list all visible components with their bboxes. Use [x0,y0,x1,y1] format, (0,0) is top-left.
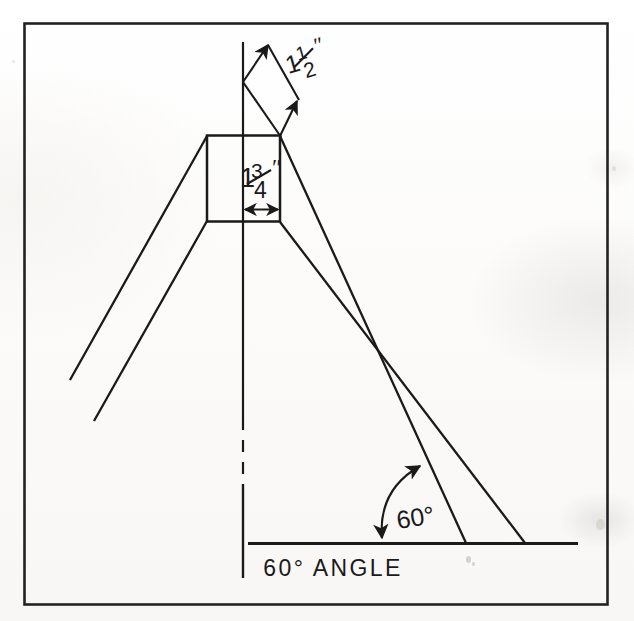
angle-value-label: 60° [394,500,436,534]
drawing-frame [25,24,608,605]
drawing-page: 1 1 2 ″ 1 3 4 ″ 60° 60° [0,0,634,621]
dim-diagonal-arrow-upper [243,45,268,82]
horizontal-dimension-1-3-4: 1 3 4 ″ [240,155,282,210]
right-leg [280,136,525,543]
dim-diagonal-side-left [243,82,281,137]
dim-1-3-4-unit: ″ [272,155,282,180]
dim-label-1-3-4: 1 3 4 ″ [240,155,282,203]
dim-1-1-2-unit: ″ [311,32,327,59]
left-leg-inner-edge [94,221,207,421]
technical-drawing-canvas: 1 1 2 ″ 1 3 4 ″ 60° 60° [0,0,634,621]
dim-diagonal-arrow-lower [280,101,297,136]
dim-1-1-2-denominator: 2 [301,57,319,82]
diagonal-dimension-1-1-2: 1 1 2 ″ [243,32,332,137]
angle-arc-60: 60° [382,466,436,538]
right-leg-inner-edge [280,136,466,543]
dim-1-3-4-denominator: 4 [254,177,267,203]
right-leg-outer-edge [280,222,525,543]
drawing-caption: 60° ANGLE [263,555,402,581]
left-leg [70,136,207,421]
